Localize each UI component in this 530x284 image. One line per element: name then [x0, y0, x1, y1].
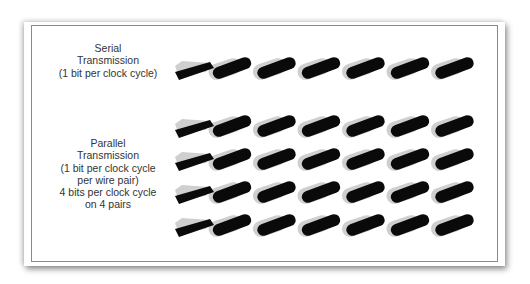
serial-label-line-3: (1 bit per clock cycle) [38, 67, 178, 79]
serial-label-line-2: Transmission [38, 54, 178, 66]
serial-cable [170, 50, 500, 90]
parallel-label-line-1: Parallel [38, 137, 178, 149]
parallel-label-line-2: Transmission [38, 149, 178, 161]
parallel-transmission-label: Parallel Transmission (1 bit per clock c… [38, 137, 178, 211]
serial-label-line-1: Serial [38, 42, 178, 54]
parallel-label-line-5: 4 bits per clock cycle [38, 186, 178, 198]
parallel-label-line-6: on 4 pairs [38, 198, 178, 210]
parallel-label-line-3: (1 bit per clock cycle [38, 162, 178, 174]
serial-transmission-label: Serial Transmission (1 bit per clock cyc… [38, 42, 178, 79]
parallel-cable-pair-4 [170, 207, 500, 247]
parallel-label-line-4: per wire pair) [38, 174, 178, 186]
